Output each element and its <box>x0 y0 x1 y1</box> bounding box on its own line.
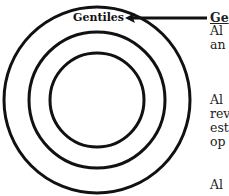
annotation-line: op <box>210 135 226 148</box>
gentiles-label: Gentiles <box>73 12 124 24</box>
annotation-line: rev <box>210 107 229 120</box>
annotation-line: Al <box>210 24 223 37</box>
inner-circle <box>50 53 144 147</box>
annotation-line: Al <box>210 178 223 191</box>
annotation-line: est <box>210 121 229 134</box>
annotation-line: Al <box>210 93 223 106</box>
arrow <box>125 13 207 23</box>
concentric-circles-diagram <box>0 0 229 196</box>
outer-circle <box>4 7 190 193</box>
annotation-line: an <box>210 38 226 51</box>
